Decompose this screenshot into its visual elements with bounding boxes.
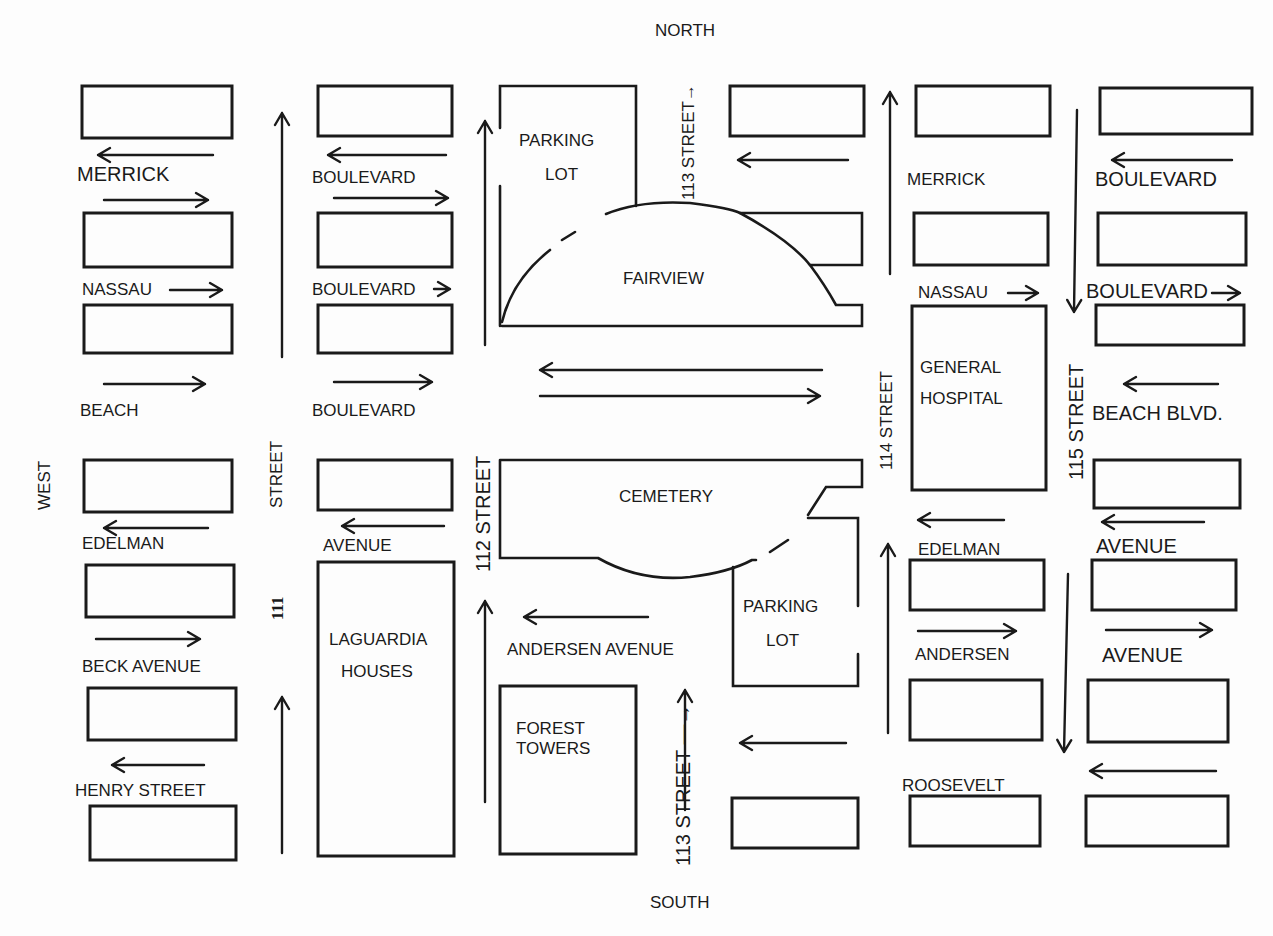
city-block xyxy=(1100,88,1252,134)
street-label-andersen-avenue: ANDERSEN AVENUE xyxy=(507,641,674,658)
street-label-boulevard-east-1: BOULEVARD xyxy=(1095,169,1217,189)
forest-towers-label-2: TOWERS xyxy=(516,740,590,757)
direction-arrow-icon xyxy=(98,148,213,162)
parking-lot-north-label-2: LOT xyxy=(545,166,578,183)
street-label-114-street: 114 STREET xyxy=(878,371,895,470)
direction-arrow-icon xyxy=(1106,623,1212,637)
street-label-merrick-west: MERRICK xyxy=(77,164,169,184)
parking-lot-south-label: PARKING xyxy=(743,598,818,615)
city-block xyxy=(318,86,452,136)
street-label-111-number: 111 xyxy=(269,596,286,620)
direction-arrow-icon xyxy=(1102,515,1204,529)
direction-arrow-icon xyxy=(328,148,446,162)
city-block xyxy=(318,305,452,353)
direction-arrow-icon xyxy=(1057,574,1071,752)
direction-arrow-icon xyxy=(112,758,204,772)
fairview-arc xyxy=(740,213,810,265)
general-hospital-label: GENERAL xyxy=(920,359,1001,376)
direction-arrow-icon xyxy=(540,389,820,403)
city-block xyxy=(1092,560,1236,610)
cemetery-label: CEMETERY xyxy=(619,488,713,505)
street-label-avenue-east-2: AVENUE xyxy=(1102,645,1183,665)
direction-arrow-icon xyxy=(334,191,448,205)
city-block xyxy=(910,560,1044,610)
city-block xyxy=(914,213,1048,265)
city-block xyxy=(84,213,232,267)
city-block xyxy=(500,686,636,854)
street-label-boulevard-west-1: BOULEVARD xyxy=(312,169,416,186)
city-block xyxy=(732,798,858,848)
compass-west: WEST xyxy=(36,461,53,510)
street-label-111-street: STREET xyxy=(268,441,285,508)
direction-arrow-icon xyxy=(275,697,289,853)
compass-north: NORTH xyxy=(655,22,715,39)
direction-arrow-icon xyxy=(1212,286,1240,300)
compass-south: SOUTH xyxy=(650,894,710,911)
direction-arrow-icon xyxy=(738,153,848,167)
street-label-andersen-east: ANDERSEN xyxy=(915,646,1009,663)
street-label-nassau-west: NASSAU xyxy=(82,281,152,298)
street-label-nassau-east: NASSAU xyxy=(918,284,988,301)
street-label-beach-blvd-east: BEACH BLVD. xyxy=(1092,403,1223,423)
direction-arrow-icon xyxy=(918,624,1016,638)
street-label-113-street-south: 113 STREET —→ xyxy=(673,704,693,866)
fairview-label: FAIRVIEW xyxy=(623,270,704,287)
city-block xyxy=(318,460,452,510)
direction-arrow-icon xyxy=(342,519,444,533)
direction-arrow-icon xyxy=(1112,153,1232,167)
city-block xyxy=(82,86,232,138)
street-label-113-street-north: 113 STREET→ xyxy=(680,84,697,200)
direction-arrow-icon xyxy=(740,736,846,750)
laguardia-houses-label-2: HOUSES xyxy=(341,663,413,680)
street-label-boulevard-west-2: BOULEVARD xyxy=(312,281,416,298)
parking-lot-north-outline xyxy=(500,86,636,326)
cemetery-outline xyxy=(500,460,862,606)
street-label-merrick-east: MERRICK xyxy=(907,171,985,188)
city-block xyxy=(1094,460,1240,508)
parking-lot-north-label: PARKING xyxy=(519,132,594,149)
direction-arrow-icon xyxy=(478,601,492,802)
street-label-roosevelt: ROOSEVELT xyxy=(902,777,1005,794)
direction-arrow-icon xyxy=(104,521,208,535)
street-label-beach-west: BEACH xyxy=(80,402,139,419)
city-block xyxy=(88,688,236,740)
city-block xyxy=(1098,213,1246,265)
direction-arrow-icon xyxy=(170,283,222,297)
city-block xyxy=(90,806,236,860)
street-label-115-street: 115 STREET xyxy=(1066,364,1086,480)
direction-arrow-icon xyxy=(540,363,822,377)
direction-arrow-icon xyxy=(1090,764,1216,778)
street-label-beck-avenue: BECK AVENUE xyxy=(82,658,201,675)
street-label-112-street: 112 STREET xyxy=(473,456,493,572)
direction-arrow-icon xyxy=(1067,110,1081,312)
parking-lot-south-label-2: LOT xyxy=(766,632,799,649)
street-label-boulevard-west-3: BOULEVARD xyxy=(312,402,416,419)
direction-arrow-icon xyxy=(524,610,648,624)
direction-arrow-icon xyxy=(478,121,492,345)
city-block xyxy=(318,562,454,856)
direction-arrow-icon xyxy=(104,377,205,391)
city-block xyxy=(86,565,234,617)
street-label-avenue-west-1: AVENUE xyxy=(323,537,392,554)
city-block xyxy=(1096,305,1244,345)
direction-arrow-icon xyxy=(275,113,289,357)
direction-arrow-icon xyxy=(334,375,432,389)
street-label-avenue-east-1: AVENUE xyxy=(1096,536,1177,556)
street-label-boulevard-east-2: BOULEVARD xyxy=(1086,281,1208,301)
street-label-henry-street: HENRY STREET xyxy=(75,782,206,799)
direction-arrow-icon xyxy=(1008,286,1038,300)
street-label-edelman-west: EDELMAN xyxy=(82,535,164,552)
street-map: NORTH SOUTH WEST PARKING LOT FAIRVIEW CE… xyxy=(0,0,1273,936)
city-block xyxy=(84,305,232,353)
street-label-edelman-east: EDELMAN xyxy=(918,541,1000,558)
direction-arrow-icon xyxy=(918,513,1004,527)
city-block xyxy=(1088,680,1228,742)
parking-lot-south-outline xyxy=(733,567,858,686)
city-block xyxy=(730,86,864,136)
city-block xyxy=(318,213,452,267)
direction-arrow-icon xyxy=(96,632,200,646)
general-hospital-label-2: HOSPITAL xyxy=(920,390,1003,407)
direction-arrow-icon xyxy=(881,544,895,733)
city-block xyxy=(1086,796,1228,846)
direction-arrow-icon xyxy=(883,92,897,274)
